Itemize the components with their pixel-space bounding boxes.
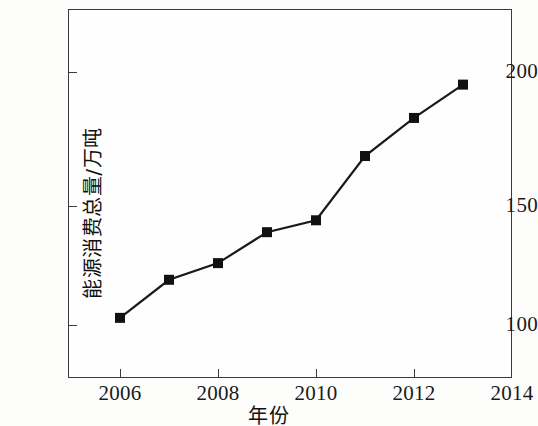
x-tick-2010: [316, 369, 317, 378]
energy-consumption-line-chart: 200 150 100 2006 2008 2010 2012 2014 能源消…: [0, 0, 538, 426]
x-tick-2012: [414, 369, 415, 378]
y-tick-150: [68, 206, 77, 207]
plot-area-frame: [68, 9, 512, 378]
x-axis-title: 年份: [0, 400, 538, 426]
y-tick-label-150: 150: [476, 195, 538, 216]
x-tick-2008: [218, 369, 219, 378]
x-tick-2006: [120, 369, 121, 378]
y-tick-200: [68, 72, 77, 73]
y-axis-title: 能源消费总量/万吨: [77, 127, 106, 298]
y-tick-label-100: 100: [476, 314, 538, 335]
y-tick-100: [68, 325, 77, 326]
y-tick-label-200: 200: [476, 61, 538, 82]
